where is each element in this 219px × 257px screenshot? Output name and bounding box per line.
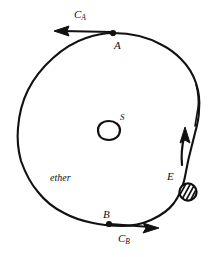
rotation-arrow-head — [180, 127, 190, 143]
c-b-arrow-head — [143, 223, 159, 233]
label-point-b: B — [103, 209, 110, 220]
emitter-hatched-circle — [177, 180, 199, 205]
label-c-a: CA — [74, 9, 86, 22]
c-a-arrow-shaft — [62, 31, 112, 32]
source-blob — [98, 121, 120, 140]
label-emitter-e: E — [167, 171, 174, 182]
ether-ring — [18, 33, 200, 226]
c-a-arrow-head — [54, 26, 69, 36]
label-ether: ether — [50, 173, 71, 183]
label-c-a-subscript: A — [81, 13, 86, 22]
label-c-b: CB — [118, 233, 130, 246]
label-source-s: S — [120, 113, 125, 122]
label-point-a: A — [114, 40, 121, 51]
label-c-b-subscript: B — [125, 237, 130, 246]
